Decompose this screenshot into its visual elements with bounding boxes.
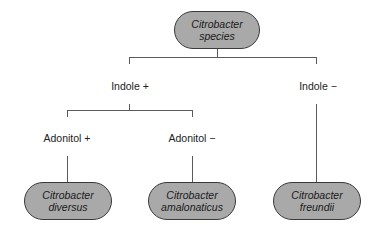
- connector: [316, 104, 317, 182]
- connector: [316, 57, 317, 64]
- connector: [67, 110, 193, 111]
- node-label-line2: freundii: [300, 201, 334, 213]
- connector: [129, 57, 317, 58]
- node-label-line1: Citrobacter: [291, 189, 342, 201]
- node-citrobacter-species: Citrobacter species: [174, 11, 260, 49]
- node-label-line1: Citrobacter: [166, 189, 217, 201]
- node-label-line2: diversus: [48, 201, 87, 213]
- branch-label-indole-positive: Indole +: [111, 80, 149, 92]
- node-citrobacter-amalonaticus: Citrobacter amalonaticus: [148, 182, 236, 220]
- connector: [192, 110, 193, 117]
- node-label-line1: Citrobacter: [191, 18, 242, 30]
- node-label-line2: species: [199, 30, 235, 42]
- branch-label-indole-negative: Indole −: [299, 80, 337, 92]
- branch-label-adonitol-positive: Adonitol +: [44, 132, 91, 144]
- node-label-line2: amalonaticus: [161, 201, 223, 213]
- branch-label-adonitol-negative: Adonitol −: [169, 132, 216, 144]
- connector: [67, 156, 68, 182]
- connector: [192, 156, 193, 182]
- node-label-line1: Citrobacter: [42, 189, 93, 201]
- node-citrobacter-diversus: Citrobacter diversus: [24, 182, 112, 220]
- connector: [67, 110, 68, 117]
- node-citrobacter-freundii: Citrobacter freundii: [273, 182, 361, 220]
- connector: [129, 57, 130, 64]
